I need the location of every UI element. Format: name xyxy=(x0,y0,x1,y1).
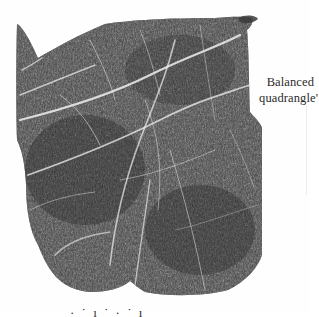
page-edge-rule xyxy=(306,105,307,195)
cut-off-body-text: · ˙ ı ˙ · ˙ ı xyxy=(70,305,240,317)
palm-print-figure xyxy=(0,0,270,300)
caption-line-1: Balanced xyxy=(258,74,318,90)
caption-line-2: quadrangle' xyxy=(252,90,318,106)
figure-caption: Balanced quadrangle' xyxy=(258,74,318,106)
palm-print-image xyxy=(0,0,270,300)
finger-tip-fragment xyxy=(238,15,258,23)
